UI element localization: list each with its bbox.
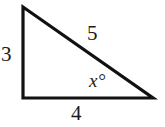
vertical-leg-length-label: 3 [1,44,12,65]
horizontal-leg-length-label: 4 [71,103,82,124]
hypotenuse-length-label: 5 [87,23,98,44]
right-triangle-figure: 3 5 4 x° [0,0,165,127]
angle-x-label: x° [89,71,105,90]
triangle-shape [0,0,165,127]
